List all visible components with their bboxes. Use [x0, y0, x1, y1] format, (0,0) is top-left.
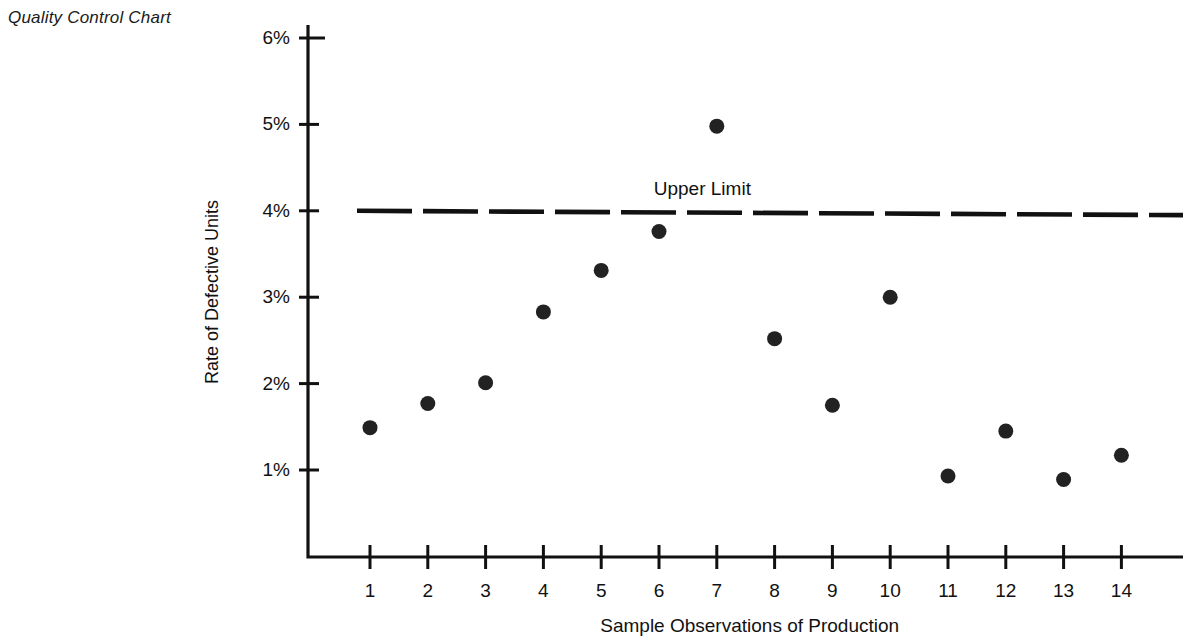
data-point-sample-11	[941, 469, 956, 484]
x-tick-label-7: 7	[712, 580, 723, 602]
upper-limit-label: Upper Limit	[654, 178, 751, 200]
x-tick-label-6: 6	[654, 580, 665, 602]
y-tick-label-6%: 6%	[240, 27, 290, 49]
y-axis-title: Rate of Defective Units	[202, 200, 223, 384]
x-tick-label-4: 4	[538, 580, 549, 602]
y-tick-label-2%: 2%	[240, 373, 290, 395]
data-point-sample-4	[536, 304, 551, 319]
y-axis-ticks	[299, 38, 325, 470]
data-point-sample-14	[1114, 448, 1129, 463]
axis-lines	[308, 25, 1183, 557]
data-point-sample-2	[420, 396, 435, 411]
x-tick-label-11: 11	[938, 580, 958, 602]
data-point-sample-3	[478, 375, 493, 390]
x-tick-label-9: 9	[827, 580, 838, 602]
data-point-sample-13	[1056, 472, 1071, 487]
data-point-sample-7	[709, 119, 724, 134]
x-tick-label-2: 2	[423, 580, 434, 602]
y-tick-label-4%: 4%	[240, 200, 290, 222]
x-tick-label-1: 1	[365, 580, 376, 602]
upper-limit-line	[357, 211, 1183, 215]
quality-control-chart: Quality Control Chart 1%2%3%4%5%6% 12345…	[0, 0, 1183, 641]
data-point-sample-12	[998, 424, 1013, 439]
data-point-sample-6	[652, 224, 667, 239]
data-point-group	[363, 119, 1129, 487]
data-point-sample-10	[883, 290, 898, 305]
x-tick-label-3: 3	[480, 580, 491, 602]
y-tick-label-1%: 1%	[240, 459, 290, 481]
plot-canvas	[0, 0, 1183, 641]
x-tick-label-14: 14	[1111, 580, 1132, 602]
axes-group	[299, 25, 1183, 569]
data-point-sample-5	[594, 263, 609, 278]
y-tick-label-5%: 5%	[240, 113, 290, 135]
data-point-sample-8	[767, 331, 782, 346]
x-tick-label-8: 8	[769, 580, 780, 602]
x-tick-label-13: 13	[1053, 580, 1074, 602]
y-tick-label-3%: 3%	[240, 286, 290, 308]
x-axis-title: Sample Observations of Production	[600, 615, 899, 637]
x-tick-label-5: 5	[596, 580, 607, 602]
x-tick-label-10: 10	[880, 580, 901, 602]
data-point-sample-1	[363, 420, 378, 435]
data-point-sample-9	[825, 398, 840, 413]
x-tick-label-12: 12	[995, 580, 1016, 602]
